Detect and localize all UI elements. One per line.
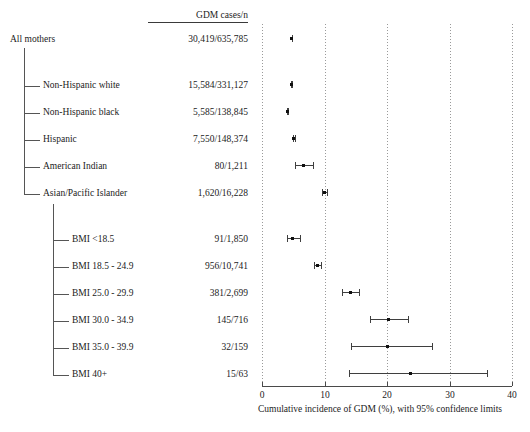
confidence-interval-line [351,346,433,347]
ci-lower-cap [295,162,296,169]
gridline [325,24,326,386]
axis-tick [387,382,388,386]
gridline [512,24,513,386]
point-estimate [302,164,305,167]
ci-lower-cap [342,289,343,296]
gridline [387,24,388,386]
axis-tick [450,382,451,386]
ci-upper-cap [359,289,360,296]
point-estimate [409,372,412,375]
point-estimate [290,83,293,86]
axis-tick [325,382,326,386]
ci-lower-cap [351,343,352,350]
point-estimate [386,345,389,348]
ci-lower-cap [349,370,350,377]
point-estimate [291,237,294,240]
ci-upper-cap [327,189,328,196]
plot-area: 010203040 [0,0,530,432]
point-estimate [387,318,390,321]
forest-plot-figure: GDM cases/n All mothers30,419/635,785Non… [0,0,530,432]
point-estimate [290,37,293,40]
axis-line [262,386,512,387]
ci-lower-cap [370,316,371,323]
ci-upper-cap [408,316,409,323]
axis-tick-label: 20 [372,390,402,400]
point-estimate [292,137,295,140]
confidence-interval-line [349,373,487,374]
ci-upper-cap [321,262,322,269]
ci-lower-cap [287,235,288,242]
point-estimate [349,291,352,294]
gridline [262,24,263,386]
ci-upper-cap [300,235,301,242]
axis-tick-label: 40 [497,390,527,400]
ci-upper-cap [313,162,314,169]
axis-tick-label: 30 [435,390,465,400]
x-axis-title: Cumulative incidence of GDM (%), with 95… [235,404,525,415]
ci-upper-cap [487,370,488,377]
gridline [450,24,451,386]
ci-upper-cap [432,343,433,350]
point-estimate [316,264,319,267]
axis-tick [262,382,263,386]
axis-tick-label: 0 [247,390,277,400]
point-estimate [323,191,326,194]
point-estimate [286,110,289,113]
axis-tick [512,382,513,386]
axis-tick-label: 10 [310,390,340,400]
